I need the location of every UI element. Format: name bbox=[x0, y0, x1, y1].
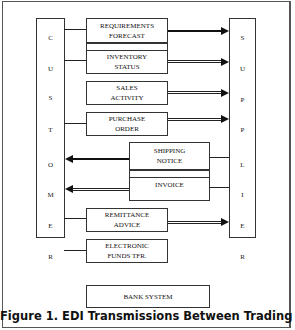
arrow-right-icon bbox=[221, 115, 229, 123]
arrow-line bbox=[168, 221, 222, 224]
connector-line bbox=[210, 157, 229, 158]
supplier-letter: P bbox=[230, 96, 255, 104]
message-box-sales-activity: SALESACTIVITY bbox=[86, 81, 168, 105]
connector-line bbox=[64, 123, 86, 124]
message-box-remittance-advice: REMITTANCEADVICE bbox=[86, 208, 168, 232]
customer-letter: R bbox=[37, 253, 64, 261]
connector-line bbox=[210, 187, 229, 188]
customer-box: C U S T O M E R bbox=[36, 18, 65, 238]
arrow-right-icon bbox=[221, 218, 229, 226]
supplier-letter: U bbox=[230, 65, 255, 73]
arrow-right-icon bbox=[221, 58, 229, 66]
arrow-line bbox=[72, 158, 129, 160]
supplier-letter: S bbox=[230, 34, 255, 42]
customer-letter: S bbox=[37, 94, 64, 102]
figure-caption: Figure 1. EDI Transmissions Between Trad… bbox=[0, 309, 295, 323]
arrow-line bbox=[168, 118, 222, 121]
customer-letter: U bbox=[37, 65, 64, 73]
customer-letter: C bbox=[37, 34, 64, 42]
arrow-line bbox=[72, 188, 129, 191]
supplier-letter: L bbox=[230, 161, 255, 169]
supplier-letter: I bbox=[230, 191, 255, 199]
arrow-right-icon bbox=[221, 27, 229, 35]
connector-line bbox=[64, 60, 86, 61]
message-box-invoice: INVOICE bbox=[129, 177, 210, 201]
message-box-requirements-forecast: REQUIREMENTSFORECAST bbox=[86, 18, 168, 43]
arrow-right-icon bbox=[221, 89, 229, 97]
customer-letter: E bbox=[37, 222, 64, 230]
connector-line bbox=[64, 29, 86, 30]
message-box-shipping-notice: SHIPPINGNOTICE bbox=[129, 142, 210, 170]
supplier-letter: R bbox=[230, 253, 255, 261]
arrow-line bbox=[168, 30, 222, 32]
connector-line bbox=[64, 250, 86, 251]
supplier-letter: E bbox=[230, 222, 255, 230]
message-box-purchase-order: PURCHASEORDER bbox=[86, 112, 168, 136]
customer-letter: T bbox=[37, 126, 64, 134]
supplier-box: S U P P L I E R bbox=[229, 18, 256, 238]
arrow-line bbox=[168, 91, 222, 94]
bank-system-box: BANK SYSTEM bbox=[86, 285, 210, 308]
message-box-inventory-status: INVENTORYSTATUS bbox=[86, 50, 168, 74]
connector-line bbox=[64, 218, 86, 219]
supplier-letter: P bbox=[230, 126, 255, 134]
customer-letter: M bbox=[37, 191, 64, 199]
message-box-electronic-funds-transfer: ELECTRONICFUNDS TFR. bbox=[86, 239, 168, 263]
customer-letter: O bbox=[37, 161, 64, 169]
arrow-line bbox=[168, 60, 222, 63]
